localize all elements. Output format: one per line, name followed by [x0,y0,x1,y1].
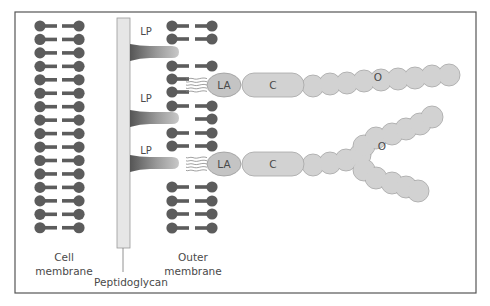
lipid-head [34,168,45,179]
phospholipid [166,140,189,151]
phospholipid [166,181,189,192]
phospholipid [34,128,57,139]
phospholipid [166,208,189,219]
phospholipid [62,74,85,85]
lipid-head [34,195,45,206]
phospholipid [166,33,189,44]
lipid-head [206,20,217,31]
lps-membrane-diagram: LPLPLP LACOLACO Cell membrane Outer memb… [0,0,490,306]
lipid-head [73,195,84,206]
phospholipid [34,115,57,126]
lipid-head [73,182,84,193]
lipid-head [166,20,177,31]
lipid-head [166,33,177,44]
phospholipid [34,101,57,112]
peptidoglycan-layer [117,18,130,248]
lipid-head [166,127,177,138]
phospholipid [166,60,189,71]
phospholipid [62,155,85,166]
phospholipid [34,61,57,72]
lipid-head [166,208,177,219]
lipid-head [166,60,177,71]
phospholipid [34,20,57,31]
phospholipid [62,47,85,58]
lipoprotein-body [130,44,179,61]
lipid-head [206,33,217,44]
cell-membrane-label-line2: membrane [35,265,92,277]
phospholipid [34,222,57,233]
cell-membrane-label-line1: Cell [54,251,74,263]
o-antigen-chain [302,106,443,202]
lipid-head [73,34,84,45]
phospholipid [195,113,218,124]
lipid-head [73,101,84,112]
phospholipid [62,20,85,31]
lipid-head [73,209,84,220]
lipid-head [34,128,45,139]
phospholipid [195,222,218,233]
lipid-a-tail [186,91,207,92]
outer-membrane-label-line2: membrane [164,265,221,277]
phospholipid [62,195,85,206]
o-antigen-sugar-fill [408,181,428,201]
phospholipid [195,100,218,111]
peptidoglycan-label: Peptidoglycan [94,276,168,288]
lipid-head [34,47,45,58]
lipid-head [73,20,84,31]
phospholipid [62,168,85,179]
lipid-head [166,73,177,84]
phospholipid [195,60,218,71]
lipid-head [73,222,84,233]
lipid-head [206,208,217,219]
lipid-head [73,88,84,99]
phospholipid [195,33,218,44]
phospholipid [195,127,218,138]
lipid-head [73,128,84,139]
lipid-head [73,74,84,85]
lipoprotein-body [130,110,179,127]
phospholipid [34,74,57,85]
phospholipid [34,88,57,99]
lipid-head [73,155,84,166]
phospholipid [195,195,218,206]
phospholipid [34,47,57,58]
lipid-a-tail [186,88,207,89]
lipid-head [73,47,84,58]
lipid-head [166,140,177,151]
phospholipid [34,182,57,193]
lipid-head [206,100,217,111]
phospholipid [195,140,218,151]
lipid-a-label: LA [217,79,231,91]
lipoprotein-label: LP [140,145,152,156]
lipoprotein-body [130,155,179,172]
o-antigen-label: O [378,140,386,152]
lipid-head [34,88,45,99]
lipid-a-tail [186,163,207,164]
lipoprotein-label: LP [140,26,152,37]
lipid-head [166,100,177,111]
lipid-a-tail [186,84,207,85]
lipid-head [34,115,45,126]
lipid-a-tail [186,157,207,158]
phospholipid [62,128,85,139]
lipid-head [206,127,217,138]
cell-membrane-bilayer [34,20,84,233]
phospholipid [34,195,57,206]
lipid-head [206,60,217,71]
lipid-head [34,61,45,72]
lipid-head [34,222,45,233]
phospholipid [62,101,85,112]
phospholipid [62,88,85,99]
lipid-a-label: LA [217,158,231,170]
phospholipid [62,61,85,72]
lipid-head [206,222,217,233]
phospholipid [166,195,189,206]
lipid-head [34,209,45,220]
core-label: C [269,158,276,170]
phospholipid [62,182,85,193]
phospholipid [166,20,189,31]
lipid-head [73,168,84,179]
lipid-a-tail [186,160,207,161]
phospholipid [166,73,189,84]
lps-molecule: LACO [186,64,460,97]
